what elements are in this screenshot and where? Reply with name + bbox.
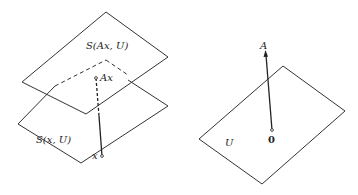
label-x: x	[92, 150, 98, 161]
diagram-canvas: S(Ax, U) S(x, U) Ax x A 0 U	[0, 0, 358, 195]
point-x	[101, 155, 104, 158]
label-ax: Ax	[99, 72, 113, 83]
plane-s-x-u	[18, 60, 168, 163]
segment-x-to-ax	[96, 78, 102, 156]
origin-point	[271, 129, 274, 132]
label-u: U	[225, 137, 234, 148]
point-ax	[95, 77, 98, 80]
label-s-x-u: S(x, U)	[36, 134, 71, 145]
arrowhead-icon	[264, 50, 269, 57]
vector-a	[264, 50, 273, 130]
label-a: A	[259, 40, 267, 51]
label-s-ax-u: S(Ax, U)	[86, 40, 128, 51]
label-origin: 0	[268, 134, 275, 145]
plane-s-ax-u	[22, 12, 168, 114]
